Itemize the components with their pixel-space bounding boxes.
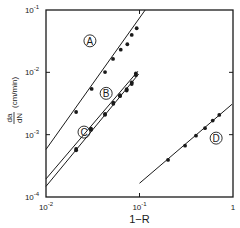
y-tick-label: 10-3 <box>25 129 40 140</box>
fatigue-crack-growth-chart: dadN(cm/min) 10-210-1110-410-310-210-1 A… <box>0 0 240 228</box>
series-label-a: A <box>84 35 96 47</box>
data-point-a <box>135 26 139 30</box>
svg-text:B: B <box>103 88 110 99</box>
data-point-a <box>90 87 94 91</box>
data-point-a <box>125 42 129 46</box>
data-point-c <box>118 94 122 98</box>
plot-frame <box>46 10 233 197</box>
y-axis-numerator: da <box>5 113 14 122</box>
data-point-c <box>134 73 138 77</box>
data-point-a <box>111 57 115 61</box>
data-point-c <box>130 82 134 86</box>
axis-ticks <box>46 10 233 197</box>
svg-text:A: A <box>87 36 94 47</box>
y-axis-title-group: dadN(cm/min) <box>5 77 24 124</box>
series-points <box>74 26 221 162</box>
y-tick-label: 10-2 <box>25 66 40 77</box>
svg-text:C: C <box>80 127 87 138</box>
series-label-c: C <box>78 126 90 138</box>
series-lines <box>46 10 232 186</box>
y-axis-denominator: dN <box>15 113 24 123</box>
y-tick-label: 10-4 <box>25 191 40 202</box>
x-axis-title: 1−R <box>129 213 150 225</box>
data-point-a <box>74 110 78 114</box>
series-label-b: B <box>100 87 112 99</box>
data-point-c <box>111 102 115 106</box>
data-point-d <box>166 158 170 162</box>
data-point-d <box>217 113 221 117</box>
x-tick-label: 1 <box>231 203 236 212</box>
data-point-c <box>125 89 129 93</box>
series-labels: ABCD <box>78 35 222 144</box>
x-tick-label: 10-2 <box>39 201 54 212</box>
data-point-d <box>211 119 215 123</box>
data-point-a <box>119 48 123 52</box>
data-point-c <box>74 148 78 152</box>
series-label-d: D <box>210 132 222 144</box>
y-axis-title: dadN(cm/min) <box>5 77 24 124</box>
data-point-d <box>203 126 207 130</box>
x-tick-label: 10-1 <box>132 201 147 212</box>
y-tick-label: 10-1 <box>25 4 40 15</box>
data-point-d <box>194 134 198 138</box>
data-point-d <box>183 144 187 148</box>
data-point-c <box>103 113 107 117</box>
svg-text:D: D <box>213 133 220 144</box>
data-point-a <box>130 33 134 37</box>
y-axis-units: (cm/min) <box>10 77 19 108</box>
data-point-a <box>103 70 107 74</box>
